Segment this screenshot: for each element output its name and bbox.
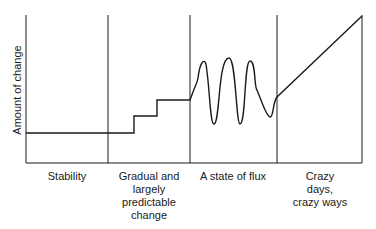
phase-label-stability: Stability (48, 170, 87, 183)
phase-label-crazy-days: Crazy days, crazy ways (292, 170, 348, 209)
phase-label-flux: A state of flux (200, 170, 266, 183)
phase-label-gradual-change: Gradual and largely predictable change (119, 170, 180, 222)
change-curve (26, 16, 362, 133)
y-axis-label: Amount of change (11, 45, 23, 134)
